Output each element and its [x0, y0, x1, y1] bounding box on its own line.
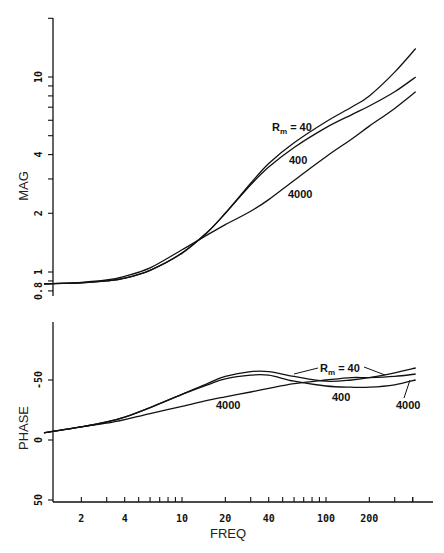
freq-axis-label: FREQ: [210, 526, 246, 541]
phase-axis-label: PHASE: [16, 406, 31, 450]
mag-curve-2: [44, 92, 416, 284]
phase-annotation-4000-left: 4000: [216, 399, 240, 411]
mag-tick-label: 0.8: [33, 282, 44, 300]
mag-axis: 0.812410 MAG: [16, 18, 53, 300]
x-tick-label: 40: [263, 513, 275, 524]
phase-axis: 500-50 PHASE: [16, 322, 433, 506]
phase-annotation-400: 400: [332, 391, 350, 403]
x-tick-label: 100: [317, 513, 335, 524]
mag-tick-label: 1: [33, 269, 44, 275]
mag-curves: [44, 49, 416, 284]
mag-tick-label: 10: [33, 71, 44, 83]
mag-tick-label: 2: [33, 210, 44, 216]
mag-axis-label: MAG: [16, 171, 31, 201]
phase-leader-rm40-right: [364, 367, 385, 375]
phase-tick-label: 50: [33, 494, 44, 506]
mag-annotation-4000: 4000: [288, 188, 312, 200]
mag-curve-0: [44, 49, 416, 284]
phase-annotation-4000-right: 4000: [396, 399, 420, 411]
x-tick-label: 4: [122, 513, 128, 524]
x-tick-label: 20: [219, 513, 231, 524]
phase-tick-label: 0: [33, 437, 44, 443]
phase-leader-rm40-left: [294, 368, 318, 374]
x-tick-label: 2: [78, 513, 84, 524]
mag-annotation-400: 400: [289, 154, 307, 166]
phase-annotation-rm40: Rm = 40: [320, 362, 360, 377]
phase-tick-label: -50: [33, 371, 44, 389]
mag-tick-label: 4: [33, 152, 44, 158]
freq-axis-ticklabels: 24102040100200: [78, 513, 378, 524]
bode-plot: 0.812410 MAG 500-50 PHASE 24102040100200…: [0, 0, 444, 553]
mag-curve-1: [44, 77, 416, 284]
x-tick-label: 200: [360, 513, 378, 524]
freq-axis-ticks: [81, 497, 412, 502]
mag-annotation-rm40: Rm = 40: [272, 121, 312, 136]
x-tick-label: 10: [176, 513, 188, 524]
